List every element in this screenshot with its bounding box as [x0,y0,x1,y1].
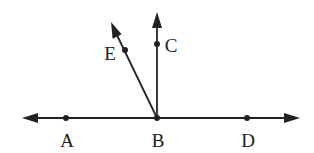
label-e: E [104,43,116,64]
geometry-diagram: A B D C E [0,0,314,153]
point-c [154,41,160,47]
label-a: A [60,130,74,151]
right-arrowhead-icon [284,113,300,123]
left-arrowhead-icon [22,113,38,123]
label-b: B [152,130,165,151]
ray-be [114,29,157,118]
point-d [244,115,250,121]
point-e [122,47,128,53]
point-b [154,115,160,121]
ray-be-arrowhead-icon [111,22,122,39]
label-d: D [241,130,255,151]
ray-bc-arrowhead-icon [152,12,162,28]
point-a [63,115,69,121]
label-c: C [165,35,178,56]
